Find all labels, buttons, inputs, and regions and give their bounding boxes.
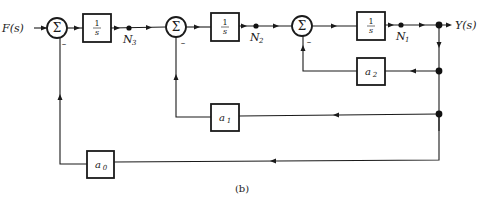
arrow-icon [146, 25, 152, 30]
svg-text:–: – [181, 38, 186, 48]
svg-text:1: 1 [94, 19, 99, 28]
svg-text:Σ: Σ [53, 21, 61, 35]
arrow-icon [437, 42, 442, 48]
svg-text:a: a [95, 159, 101, 170]
arrow-icon [41, 26, 47, 31]
arrow-icon [114, 26, 120, 31]
arrow-icon [241, 24, 247, 29]
node-n3: N 3 [122, 25, 137, 47]
arrow-icon [174, 74, 179, 80]
arrow-icon [74, 26, 80, 31]
arrow-icon [270, 159, 276, 164]
figure-caption: (b) [235, 183, 249, 194]
input-label: F(s) [1, 22, 24, 35]
svg-text:0: 0 [103, 164, 108, 172]
arrow-icon [301, 45, 306, 51]
integrator-block-2: 1 s [211, 13, 239, 41]
svg-text:2: 2 [372, 71, 378, 79]
arrow-icon [388, 23, 394, 28]
gain-block-a1: a 1 [211, 104, 239, 131]
node-n2: N 2 [249, 23, 264, 45]
integrator-block-3: 1 s [357, 12, 385, 40]
svg-text:Σ: Σ [298, 19, 306, 33]
branch-point-output [436, 22, 443, 29]
svg-text:1: 1 [227, 117, 231, 125]
feedback-path-a0 [58, 38, 440, 164]
arrow-icon [58, 94, 63, 100]
gain-block-a2: a 2 [357, 58, 385, 85]
svg-text:s: s [369, 26, 373, 35]
arrow-icon [194, 25, 200, 30]
svg-text:s: s [223, 27, 227, 36]
integrator-block-1: 1 s [83, 14, 111, 42]
arrow-icon [273, 24, 279, 29]
summing-junction-1: Σ – [47, 18, 67, 49]
svg-text:Σ: Σ [172, 20, 180, 34]
gain-block-a0: a 0 [87, 151, 114, 178]
svg-text:1: 1 [368, 17, 373, 26]
svg-text:s: s [95, 28, 99, 37]
svg-text:–: – [307, 37, 312, 47]
branch-point-a1 [436, 111, 443, 118]
svg-text:a: a [219, 112, 225, 123]
arrow-icon [446, 23, 452, 28]
branch-point-a2 [436, 68, 443, 75]
block-diagram: Σ – Σ – Σ – 1 s 1 s 1 s a 2 a 1 [0, 0, 487, 200]
svg-text:3: 3 [132, 39, 137, 47]
svg-text:2: 2 [258, 37, 264, 45]
svg-text:a: a [365, 66, 371, 77]
svg-text:1: 1 [405, 36, 409, 44]
arrow-icon [333, 113, 339, 118]
svg-text:–: – [62, 39, 67, 49]
svg-text:1: 1 [222, 18, 227, 27]
arrow-icon [419, 23, 425, 28]
output-label: Y(s) [455, 19, 477, 32]
summing-junction-3: Σ – [292, 16, 312, 47]
node-n1: N 1 [395, 22, 409, 44]
arrow-icon [410, 69, 416, 74]
arrow-icon [331, 24, 337, 29]
